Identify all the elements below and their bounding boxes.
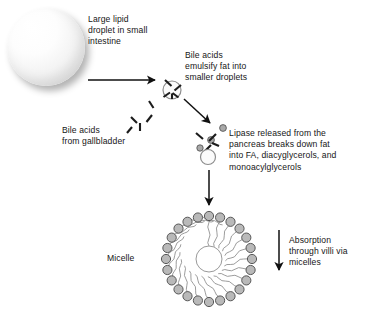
label-large-lipid-droplet: Large lipid droplet in small intestine <box>88 14 147 48</box>
emulsified-droplet-shape <box>163 80 181 99</box>
label-bile-acids-from-gallbladder: Bile acids from gallbladder <box>62 125 125 147</box>
label-absorption: Absorption through villi via micelles <box>289 235 348 269</box>
arrow-emulsified-to-lipase <box>184 99 210 123</box>
bile-acid-marks <box>127 101 154 133</box>
lipase-cluster-shape <box>196 125 226 165</box>
label-lipase-released: Lipase released from the pancreas breaks… <box>229 128 336 173</box>
figure-canvas: Large lipid droplet in small intestine B… <box>0 0 371 315</box>
micelle-shape <box>161 211 256 306</box>
label-micelle: Micelle <box>107 253 134 264</box>
label-bile-acids-emulsify: Bile acids emulsify fat into smaller dro… <box>185 50 247 84</box>
micelle-core <box>196 246 222 272</box>
